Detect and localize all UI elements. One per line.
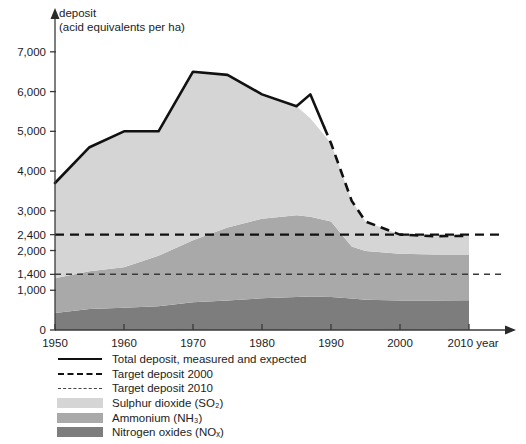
legend-key-color-swatch-icon (57, 412, 103, 424)
y-tick-label-4: 2,400 (4, 229, 46, 241)
legend-item-label: Nitrogen oxides (NOₓ) (112, 426, 224, 438)
legend-key-dashed-line-icon (57, 368, 103, 380)
y-axis-title-line1: deposit (59, 7, 96, 19)
acid-deposition-chart: deposit(acid equivalents per ha) 01,0001… (0, 0, 526, 444)
legend-item-label: Total deposit, measured and expected (112, 353, 306, 365)
legend-item-1: Target deposit 2000 (57, 367, 357, 382)
legend-key-color-swatch-icon (57, 426, 103, 438)
y-tick-label-0: 0 (4, 324, 46, 336)
x-tick-label-2: 1970 (180, 337, 206, 349)
y-tick-label-5: 3,000 (4, 205, 46, 217)
legend-item-5: Nitrogen oxides (NOₓ) (57, 425, 357, 440)
legend-item-label: Target deposit 2000 (112, 368, 213, 380)
legend-key-swatch (57, 427, 103, 437)
legend-item-2: Target deposit 2010 (57, 381, 357, 396)
x-tick-label-0: 1950 (42, 337, 68, 349)
x-axis-arrow (505, 326, 516, 335)
y-tick-label-1: 1,000 (4, 284, 46, 296)
legend-key-dotted-line-icon (57, 382, 103, 394)
y-tick-label-6: 4,000 (4, 165, 46, 177)
x-tick-label-6: 2010 year (448, 337, 499, 349)
legend-item-0: Total deposit, measured and expected (57, 352, 357, 367)
x-tick-label-4: 1990 (318, 337, 344, 349)
y-axis-title-line2: (acid equivalents per ha) (59, 21, 185, 33)
chart-legend: Total deposit, measured and expectedTarg… (57, 352, 357, 440)
y-axis-title: deposit(acid equivalents per ha) (59, 6, 185, 34)
y-tick-label-3: 2,000 (4, 245, 46, 257)
x-tick-label-5: 2000 (387, 337, 413, 349)
legend-key-solid-line-icon (57, 353, 103, 365)
legend-key-swatch (57, 398, 103, 408)
legend-item-label: Target deposit 2010 (112, 382, 213, 394)
legend-key-swatch (57, 413, 103, 423)
y-tick-label-2: 1,400 (4, 268, 46, 280)
x-tick-label-1: 1960 (111, 337, 137, 349)
legend-item-label: Ammonium (NH₃) (112, 412, 202, 424)
y-tick-label-8: 6,000 (4, 86, 46, 98)
y-tick-label-7: 5,000 (4, 125, 46, 137)
x-tick-label-3: 1980 (249, 337, 275, 349)
legend-item-3: Sulphur dioxide (SO₂) (57, 396, 357, 411)
legend-item-4: Ammonium (NH₃) (57, 410, 357, 425)
y-tick-label-9: 7,000 (4, 46, 46, 58)
y-axis-tick-labels: 01,0001,4002,0002,4003,0004,0005,0006,00… (0, 0, 46, 444)
legend-item-label: Sulphur dioxide (SO₂) (112, 397, 223, 409)
legend-key-color-swatch-icon (57, 397, 103, 409)
